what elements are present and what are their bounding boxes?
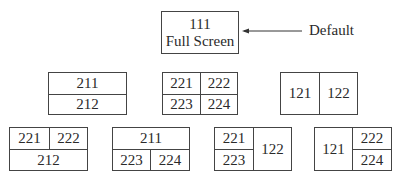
pane-222: 222	[352, 128, 391, 149]
layout-221-223-122: 221 223 122	[214, 127, 292, 171]
pane-211: 211	[49, 73, 126, 94]
pane-224: 224	[352, 149, 391, 170]
pane-222: 222	[200, 73, 237, 94]
pane-224: 224	[200, 94, 237, 114]
layout-221-222-212: 221 222 212	[9, 127, 88, 171]
default-label: Default	[309, 22, 354, 39]
pane-221: 221	[10, 128, 49, 149]
pane-222: 222	[49, 128, 87, 149]
pane-224: 224	[150, 149, 189, 170]
pane-122: 122	[319, 73, 357, 114]
pane-223: 223	[113, 149, 150, 170]
pane-122: 122	[253, 128, 291, 170]
layout-211-223-224: 211 223 224	[112, 127, 190, 171]
pane-121: 121	[281, 73, 319, 114]
pane-211: 211	[113, 128, 189, 149]
layout-121-222-224: 121 222 224	[314, 127, 392, 171]
pane-223: 223	[215, 149, 253, 170]
layout-111-full-screen: 111 Full Screen	[161, 11, 239, 54]
pane-212: 212	[10, 149, 87, 170]
layout-211-212: 211 212	[48, 72, 127, 115]
layout-id: 111	[189, 16, 210, 33]
pane-212: 212	[49, 94, 126, 114]
pane-121: 121	[315, 128, 352, 170]
layout-quad: 221 222 223 224	[162, 72, 238, 115]
layout-label: Full Screen	[166, 33, 235, 50]
layout-121-122: 121 122	[280, 72, 358, 115]
pane-221: 221	[215, 128, 253, 149]
pane-221: 221	[163, 73, 200, 94]
arrow-left-icon	[240, 25, 306, 37]
pane-223: 223	[163, 94, 200, 114]
